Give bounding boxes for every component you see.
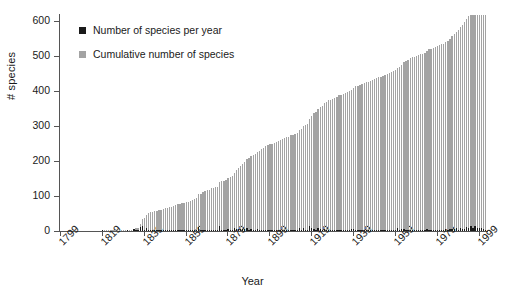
bar-cumulative: [171, 207, 172, 232]
bar-per-year: [447, 230, 448, 231]
bar-cumulative: [334, 98, 335, 231]
bar-cumulative: [282, 139, 283, 231]
bar-cumulative: [485, 15, 486, 231]
bar-cumulative: [370, 81, 371, 231]
bar-cumulative: [200, 194, 201, 231]
bar-per-year: [232, 230, 233, 231]
bar-cumulative: [250, 156, 251, 231]
bar-per-year: [426, 229, 427, 231]
bar-per-year: [227, 229, 228, 231]
bar-cumulative: [366, 82, 367, 231]
bar-per-year: [315, 230, 316, 231]
bar-cumulative: [403, 62, 404, 231]
bar-cumulative: [313, 113, 314, 231]
bar-per-year: [376, 230, 377, 231]
bar-cumulative: [261, 149, 262, 231]
bar-cumulative: [407, 60, 408, 231]
bar-cumulative: [315, 112, 316, 231]
bar-cumulative: [284, 138, 285, 231]
bar-per-year: [340, 230, 341, 231]
bar-cumulative: [209, 190, 210, 231]
bar-cumulative: [317, 109, 318, 231]
bar-per-year: [320, 229, 321, 231]
bar-cumulative: [179, 204, 180, 231]
bar-cumulative: [301, 129, 302, 231]
bar-per-year: [443, 230, 444, 231]
bar-cumulative: [328, 100, 329, 231]
bar-per-year: [230, 230, 231, 231]
bar-per-year: [384, 230, 385, 231]
bar-per-year: [387, 230, 388, 231]
bar-cumulative: [472, 15, 473, 231]
bar-cumulative: [186, 202, 187, 231]
bar-per-year: [215, 230, 216, 231]
bar-per-year: [196, 230, 197, 231]
bar-per-year: [144, 230, 145, 231]
bar-per-year: [361, 230, 362, 231]
bar-cumulative: [435, 47, 436, 231]
bar-per-year: [192, 230, 193, 231]
bar-per-year: [173, 230, 174, 231]
bar-cumulative: [217, 187, 218, 231]
bar-per-year: [410, 230, 411, 231]
bar-per-year: [378, 230, 379, 231]
bar-per-year: [485, 230, 486, 231]
bar-per-year: [460, 228, 461, 231]
bar-per-year: [186, 230, 187, 231]
bar-cumulative: [246, 159, 247, 231]
bar-cumulative: [198, 194, 199, 231]
bar-per-year: [169, 230, 170, 231]
bar-per-year: [391, 230, 392, 231]
bar-per-year: [278, 230, 279, 231]
bar-cumulative: [464, 22, 465, 231]
bar-per-year: [282, 230, 283, 231]
bar-cumulative: [355, 86, 356, 231]
bar-per-year: [163, 230, 164, 231]
bar-cumulative: [437, 46, 438, 231]
bar-cumulative: [129, 230, 130, 231]
bar-per-year: [372, 230, 373, 231]
bar-per-year: [276, 230, 277, 231]
bar-per-year: [368, 230, 369, 231]
bar-per-year: [449, 229, 450, 231]
bar-per-year: [288, 230, 289, 231]
bar-cumulative: [368, 82, 369, 231]
bar-per-year: [265, 230, 266, 231]
bar-cumulative: [416, 56, 417, 231]
bar-per-year: [317, 228, 318, 231]
bar-per-year: [183, 230, 184, 231]
bar-cumulative: [104, 230, 105, 231]
bar-cumulative: [267, 145, 268, 231]
bar-cumulative: [430, 49, 431, 231]
bar-per-year: [179, 230, 180, 231]
bar-cumulative: [288, 137, 289, 232]
bar-per-year: [395, 230, 396, 231]
bar-per-year: [102, 230, 103, 231]
bar-cumulative: [299, 130, 300, 231]
bar-cumulative: [336, 97, 337, 231]
bar-cumulative: [378, 77, 379, 231]
bar-per-year: [382, 230, 383, 231]
bar-per-year: [399, 230, 400, 231]
bar-cumulative: [338, 95, 339, 231]
bar-cumulative: [202, 192, 203, 231]
bar-cumulative: [188, 202, 189, 231]
bar-per-year: [294, 230, 295, 231]
bar-per-year: [451, 229, 452, 231]
bar-cumulative: [190, 201, 191, 231]
bar-per-year: [322, 230, 323, 231]
bar-per-year: [148, 230, 149, 231]
bar-per-year: [472, 228, 473, 231]
bar-cumulative: [330, 100, 331, 231]
bar-cumulative: [460, 27, 461, 231]
bar-cumulative: [387, 74, 388, 231]
bar-per-year: [240, 229, 241, 231]
bar-per-year: [177, 230, 178, 231]
bar-per-year: [175, 230, 176, 231]
bar-per-year: [393, 230, 394, 231]
bar-per-year: [357, 230, 358, 231]
bar-per-year: [242, 229, 243, 231]
y-tick-label: 500: [32, 49, 50, 62]
bar-per-year: [351, 229, 352, 231]
bar-cumulative: [236, 170, 237, 231]
